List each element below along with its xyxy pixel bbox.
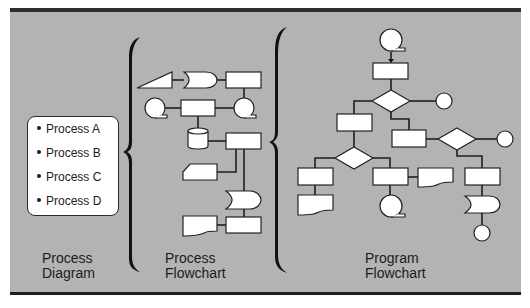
connector-symbol [497, 131, 513, 147]
process-symbol [226, 133, 261, 149]
bullet-icon [37, 198, 41, 202]
program-flowchart-caption: Program Flowchart [365, 251, 426, 281]
punched-card-symbol [183, 164, 217, 180]
decision-symbol [438, 128, 476, 150]
document-symbol [298, 195, 333, 215]
stored-data-symbol [184, 72, 217, 88]
document-symbol [418, 168, 453, 187]
magnetic-disk-symbol [188, 128, 208, 149]
sequential-tape-symbol [380, 195, 405, 217]
caption-line: Process [42, 251, 95, 266]
decision-symbol [335, 147, 373, 169]
process-symbol [181, 100, 215, 116]
connector-symbol [436, 93, 452, 109]
sequential-tape-symbol [380, 29, 405, 51]
connector-symbol [474, 225, 490, 241]
sequential-tape-symbol [145, 98, 167, 118]
bullet-icon [37, 126, 41, 130]
process-item: Process C [37, 170, 118, 194]
process-item-label: Process A [46, 122, 100, 136]
right-brace [269, 27, 287, 273]
caption-line: Process [165, 251, 226, 266]
stored-data-symbol [465, 196, 500, 213]
process-symbol [373, 168, 408, 185]
document-symbol [183, 216, 217, 236]
process-symbol [226, 217, 261, 233]
process-item-label: Process C [46, 170, 101, 184]
process-symbol [465, 168, 500, 185]
manual-input-symbol [137, 72, 172, 88]
process-item: Process D [37, 194, 118, 218]
left-brace [123, 37, 140, 272]
stored-data-symbol [226, 191, 261, 209]
caption-line: Flowchart [165, 266, 226, 281]
bullet-icon [37, 150, 41, 154]
process-symbol [392, 130, 426, 147]
process-item: Process B [37, 146, 118, 170]
process-symbol [298, 168, 333, 185]
process-symbol [226, 72, 261, 88]
process-diagram-box: Process A Process B Process C Process D [27, 116, 119, 216]
sequential-tape-symbol [234, 98, 256, 118]
process-diagram-caption: Process Diagram [42, 251, 95, 281]
process-item: Process A [37, 122, 118, 146]
process-item-label: Process B [46, 146, 101, 160]
program-flowchart [298, 29, 513, 241]
process-symbol [337, 114, 372, 131]
process-flowchart-caption: Process Flowchart [165, 251, 226, 281]
process-item-label: Process D [46, 194, 101, 208]
caption-line: Program [365, 251, 426, 266]
decision-symbol [372, 90, 410, 112]
process-symbol [373, 63, 408, 79]
caption-line: Diagram [42, 266, 95, 281]
caption-line: Flowchart [365, 266, 426, 281]
bullet-icon [37, 174, 41, 178]
process-flowchart [137, 72, 261, 236]
